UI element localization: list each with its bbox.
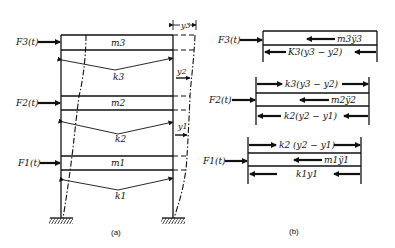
label-inertia-3: m3ÿ3 — [337, 34, 362, 44]
label-b-f1: F1(t) — [202, 156, 226, 166]
label-spring-3-below: K3(y3 − y2) — [287, 47, 343, 57]
free-body-level-1: k2 (y2 − y1) F1(t) m1ÿ1 k1y1 — [202, 137, 361, 184]
label-k3: k3 — [113, 72, 124, 82]
label-b-f3: F3(t) — [217, 35, 241, 45]
panel-a-frame: y3 y2 y1 m3 m2 m1 k3 k2 k1 F3(t) F2(t) F… — [15, 20, 196, 237]
label-k1: k1 — [115, 191, 126, 201]
label-spring-2-below: k2(y2 − y1) — [284, 111, 338, 121]
label-m1: m1 — [111, 158, 125, 168]
free-body-level-2: k3(y3 − y2) F2(t) m2ÿ2 k2(y2 − y1) — [208, 77, 369, 125]
free-body-level-3: F3(t) m3ÿ3 K3(y3 − y2) — [217, 31, 377, 62]
caption-b: (b) — [289, 227, 299, 236]
label-spring-1-below: k1y1 — [296, 169, 318, 179]
label-inertia-1: m1ÿ1 — [324, 155, 349, 165]
label-f3: F3(t) — [15, 37, 39, 47]
label-spring-1-above: k2 (y2 − y1) — [279, 140, 335, 150]
spring-k3 — [62, 58, 173, 70]
spring-k2 — [63, 122, 173, 134]
label-m2: m2 — [111, 98, 126, 108]
label-y2: y2 — [176, 67, 187, 76]
label-inertia-2: m2ÿ2 — [331, 95, 356, 105]
shear-building-diagram: y3 y2 y1 m3 m2 m1 k3 k2 k1 F3(t) F2(t) F… — [0, 0, 395, 248]
label-f2: F2(t) — [15, 98, 39, 108]
dimension-y2: y2 — [176, 67, 190, 78]
label-spring-2-above: k3(y3 − y2) — [285, 79, 339, 89]
dimension-y3: y3 — [173, 20, 196, 30]
label-k2: k2 — [115, 134, 126, 144]
label-f1: F1(t) — [17, 158, 41, 168]
ground-right-hatch — [161, 218, 185, 224]
diagram-canvas: y3 y2 y1 m3 m2 m1 k3 k2 k1 F3(t) F2(t) F… — [0, 0, 395, 248]
dimension-y1: y1 — [175, 122, 188, 135]
label-m3: m3 — [111, 38, 126, 48]
ground-left-hatch — [49, 218, 73, 224]
caption-a: (a) — [111, 228, 121, 237]
label-y3: y3 — [180, 21, 191, 30]
label-y1: y1 — [177, 122, 188, 131]
label-b-f2: F2(t) — [208, 95, 232, 105]
spring-k1 — [64, 178, 173, 190]
